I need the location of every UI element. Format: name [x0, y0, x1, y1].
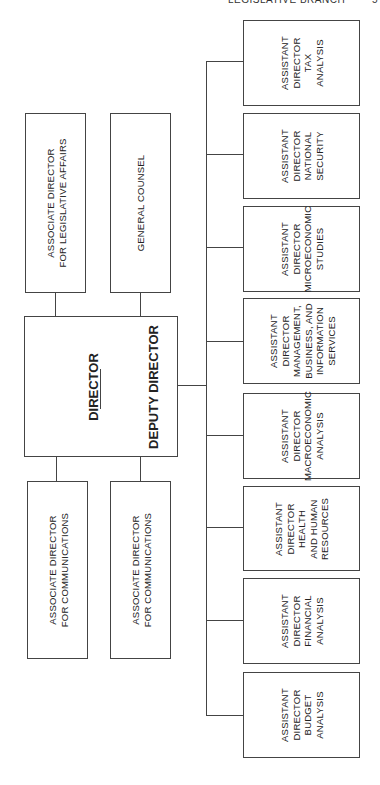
box-label: ASSOCIATE DIRECTOR — [44, 138, 56, 267]
page-number: 5 — [372, 0, 378, 5]
box-label: BUDGET — [302, 688, 314, 742]
ad-microeconomic-studies-box: ASSISTANT DIRECTOR MICROECONOMIC STUDIES — [243, 206, 360, 292]
box-label: ANALYSIS — [313, 594, 325, 648]
connector — [56, 457, 57, 481]
box-label: MANAGEMENT, — [290, 303, 302, 378]
connector — [140, 457, 141, 481]
ad-macroeconomic-analysis-box: ASSISTANT DIRECTOR MACROECONOMIC ANALYSI… — [243, 393, 360, 479]
running-title: LEGISLATIVE BRANCH — [228, 0, 345, 5]
divider — [100, 369, 101, 409]
box-label: DIRECTOR — [290, 594, 302, 648]
ad-management-box: ASSISTANT DIRECTOR MANAGEMENT, BUSINESS,… — [243, 298, 360, 384]
connector — [206, 341, 243, 342]
box-label: NATIONAL — [302, 129, 314, 183]
box-label: MACROECONOMIC — [302, 391, 314, 481]
connector — [206, 715, 243, 716]
box-label: ASSISTANT — [279, 206, 291, 293]
box-label: DIRECTOR — [290, 391, 302, 481]
box-label: AND HUMAN — [307, 498, 319, 560]
communications-box-2: ASSOCIATE DIRECTOR FOR COMMUNICATIONS — [110, 481, 171, 659]
box-label: DIRECTOR — [290, 36, 302, 90]
box-label: ASSISTANT — [267, 303, 279, 378]
box-label: RESOURCES — [319, 498, 331, 560]
connector — [55, 293, 56, 316]
box-label: ASSISTANT — [273, 498, 285, 560]
connector — [206, 620, 243, 621]
box-label: ASSOCIATE DIRECTOR — [129, 513, 141, 627]
connector — [206, 61, 243, 62]
box-label: ASSISTANT — [279, 36, 291, 90]
box-label: BUSINESS, AND — [302, 303, 314, 378]
box-label: ANALYSIS — [313, 688, 325, 742]
box-label: FOR LEGISLATIVE AFFAIRS — [56, 138, 68, 267]
director-box: DIRECTOR DEPUTY DIRECTOR — [24, 316, 178, 457]
box-label: FOR COMMUNICATIONS — [141, 513, 153, 627]
box-label: ASSISTANT — [279, 688, 291, 742]
connector — [140, 293, 141, 316]
box-label: ASSOCIATE DIRECTOR — [46, 513, 58, 627]
box-label: DIRECTOR — [284, 498, 296, 560]
box-label: DIRECTOR — [290, 206, 302, 293]
box-label: FINANCIAL — [302, 594, 314, 648]
deputy-director-title: DEPUTY DIRECTOR — [146, 325, 161, 449]
box-label: MICROECONOMIC — [302, 206, 314, 293]
general-counsel-box: GENERAL COUNSEL — [110, 113, 171, 293]
box-label: HEALTH — [296, 498, 308, 560]
box-label: ANALYSIS — [313, 36, 325, 90]
box-label: DIRECTOR — [290, 129, 302, 183]
box-label: ASSISTANT — [279, 594, 291, 648]
ad-national-security-box: ASSISTANT DIRECTOR NATIONAL SECURITY — [243, 113, 360, 199]
box-label: SECURITY — [313, 129, 325, 183]
box-label: ANALYSIS — [313, 391, 325, 481]
box-label: DIRECTOR — [290, 688, 302, 742]
bus-line — [206, 61, 207, 716]
box-label: ASSISTANT — [279, 391, 291, 481]
box-label: GENERAL COUNSEL — [135, 155, 147, 252]
connector — [177, 385, 206, 386]
connector — [206, 154, 243, 155]
box-label: FOR COMMUNICATIONS — [58, 513, 70, 627]
connector — [206, 527, 243, 528]
ad-financial-analysis-box: ASSISTANT DIRECTOR FINANCIAL ANALYSIS — [243, 578, 360, 664]
box-label: STUDIES — [313, 206, 325, 293]
box-label: TAX — [302, 36, 314, 90]
connector — [206, 247, 243, 248]
ad-budget-analysis-box: ASSISTANT DIRECTOR BUDGET ANALYSIS — [243, 672, 360, 758]
communications-box-1: ASSOCIATE DIRECTOR FOR COMMUNICATIONS — [27, 481, 88, 659]
director-title: DIRECTOR — [86, 353, 101, 421]
legislative-affairs-box: ASSOCIATE DIRECTOR FOR LEGISLATIVE AFFAI… — [25, 113, 86, 293]
box-label: DIRECTOR — [279, 303, 291, 378]
connector — [206, 435, 243, 436]
box-label: ASSISTANT — [279, 129, 291, 183]
ad-tax-analysis-box: ASSISTANT DIRECTOR TAX ANALYSIS — [243, 20, 360, 106]
ad-health-human-resources-box: ASSISTANT DIRECTOR HEALTH AND HUMAN RESO… — [243, 486, 360, 571]
box-label: INFORMATION — [313, 303, 325, 378]
box-label: SERVICES — [325, 303, 337, 378]
